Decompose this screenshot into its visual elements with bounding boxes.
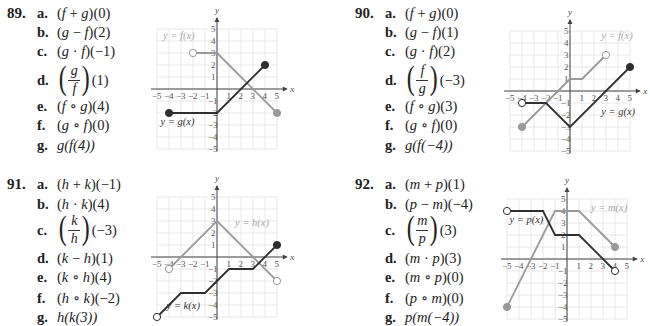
x-tick-label: −5 <box>502 261 512 271</box>
open-endpoint-icon <box>611 267 618 274</box>
x-tick-label: −4 <box>514 261 524 271</box>
y-tick-label: −2 <box>558 278 568 288</box>
y-arrow-icon <box>565 187 570 192</box>
y-axis-label: y <box>564 175 569 185</box>
y-tick-label: −3 <box>558 290 568 300</box>
y-tick-label: 5 <box>561 194 566 204</box>
y-tick-label: −4 <box>558 302 568 312</box>
x-tick-label: 3 <box>601 261 606 271</box>
y-tick-label: −1 <box>558 266 568 276</box>
dark-curve-label: y = p(x) <box>508 214 543 226</box>
x-tick-label: 2 <box>589 261 594 271</box>
y-tick-label: 3 <box>561 218 566 228</box>
axes: xy−5−5−4−4−3−3−2−2−1−11122334455 <box>501 175 644 324</box>
x-axis-label: x <box>639 254 644 264</box>
x-tick-label: 5 <box>625 261 630 271</box>
x-arrow-icon <box>633 257 638 262</box>
x-tick-label: −2 <box>538 261 548 271</box>
y-tick-label: 1 <box>561 242 566 252</box>
gray-curve-label: y = m(x) <box>590 202 628 214</box>
y-tick-label: −5 <box>558 314 568 324</box>
closed-endpoint-icon <box>611 243 618 250</box>
closed-endpoint-icon <box>503 303 510 310</box>
x-tick-label: 1 <box>577 261 582 271</box>
